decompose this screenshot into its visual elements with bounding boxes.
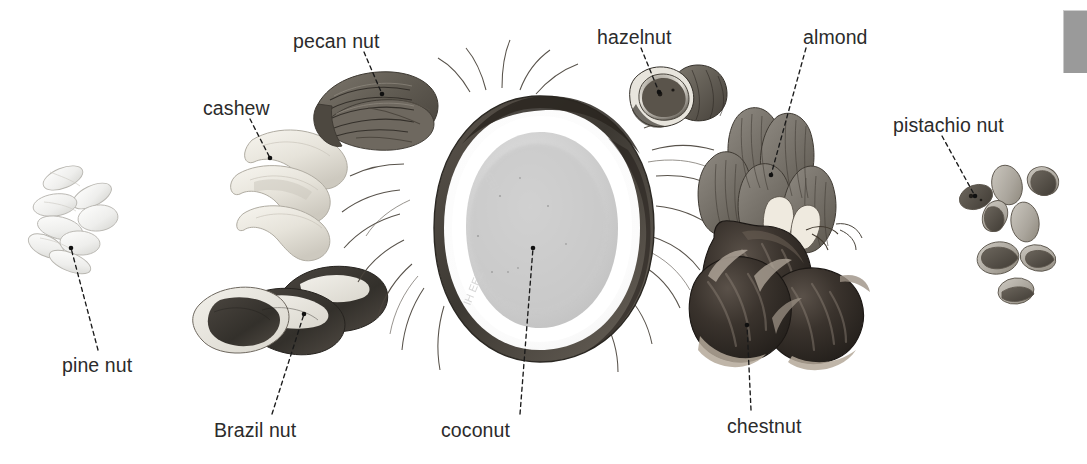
gray-corner-bar bbox=[1063, 10, 1087, 73]
leader-line-pecan-nut bbox=[364, 52, 382, 94]
leader-line-almond bbox=[771, 48, 806, 175]
leader-line-hazelnut bbox=[641, 48, 659, 92]
leader-line-anchor-dots bbox=[69, 90, 978, 328]
leader-line-brazil-nut bbox=[272, 314, 304, 414]
leader-line-chestnut bbox=[747, 325, 751, 410]
leader-line-pine-nut bbox=[71, 248, 98, 350]
label-brazil-nut: Brazil nut bbox=[214, 421, 296, 441]
label-almond: almond bbox=[803, 28, 868, 48]
label-hazelnut: hazelnut bbox=[597, 28, 672, 48]
nuts-illustration-plate: IH EEE EEIIL bbox=[0, 0, 1087, 464]
label-pecan-nut: pecan nut bbox=[293, 32, 380, 52]
label-pistachio-nut: pistachio nut bbox=[893, 116, 1004, 136]
label-cashew: cashew bbox=[203, 99, 270, 119]
leader-line-coconut bbox=[520, 248, 533, 414]
label-coconut: coconut bbox=[441, 421, 510, 441]
leader-lines bbox=[0, 0, 1087, 464]
leader-line-cashew bbox=[250, 119, 270, 158]
label-pine-nut: pine nut bbox=[62, 356, 132, 376]
label-chestnut: chestnut bbox=[727, 417, 802, 437]
leader-line-pistachio-nut bbox=[942, 136, 975, 196]
